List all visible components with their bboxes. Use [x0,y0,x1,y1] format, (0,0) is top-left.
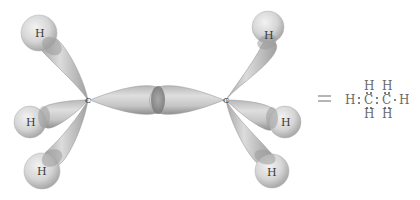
lewis-h-bottom-right: H [382,108,392,120]
svg-text:H: H [35,27,45,40]
hydrogen-atom-right-top: H [252,11,284,52]
lewis-h-left: H [345,94,355,106]
equals-sign [318,95,331,103]
lewis-structure: H H H C C H H H [342,78,414,126]
lewis-h-right: H [399,94,409,106]
hydrogen-atom-right-bottom: H [252,147,289,188]
lewis-h-top-left: H [364,80,374,92]
lewis-c1: C [364,94,373,106]
hydrogen-atom-left-bottom: H [24,146,66,189]
svg-text:H: H [281,116,291,129]
left-methyl-group: H H H C [14,15,91,189]
svg-text:H: H [264,29,274,42]
lewis-h-top-right: H [382,80,392,92]
lewis-c2: C [382,94,391,106]
svg-text:H: H [26,116,36,129]
svg-text:H: H [267,166,277,179]
right-methyl-group: H H H C [223,11,301,188]
cc-sigma-bond [90,86,224,115]
hydrogen-atom-left-middle: H [14,106,50,138]
hydrogen-atom-right-middle: H [266,106,301,138]
right-lobe-upper [226,40,277,100]
left-carbon-label: C [85,96,91,105]
right-carbon-label: C [223,96,229,105]
orbital-overlap-region [151,86,165,114]
lewis-h-bottom-left: H [364,108,374,120]
svg-text:H: H [37,165,47,178]
